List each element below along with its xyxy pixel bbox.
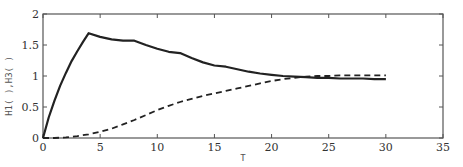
x-axis-label: T — [240, 153, 246, 163]
x-tick-label: 35 — [436, 141, 450, 154]
y-axis: 00.511.52 — [22, 8, 444, 145]
x-tick-label: 5 — [97, 141, 104, 154]
plot-frame — [43, 14, 443, 138]
y-tick-label: 2 — [32, 8, 39, 21]
y-tick-label: 0 — [32, 132, 39, 145]
y-tick-label: 1 — [32, 70, 39, 83]
line-chart: 05101520253035 00.511.52 T H1( ),H3( ) — [0, 0, 463, 167]
x-tick-label: 10 — [150, 141, 164, 154]
x-tick-label: 30 — [379, 141, 393, 154]
x-tick-label: 25 — [322, 141, 336, 154]
series-h1 — [43, 33, 386, 138]
x-axis: 05101520253035 — [40, 14, 451, 154]
series-h3 — [43, 75, 386, 138]
y-axis-label: H1( ),H3( ) — [4, 56, 14, 116]
y-tick-label: 1.5 — [22, 39, 40, 52]
x-tick-label: 15 — [207, 141, 221, 154]
x-tick-label: 0 — [40, 141, 47, 154]
plot-series — [43, 33, 386, 138]
y-tick-label: 0.5 — [22, 101, 40, 114]
x-tick-label: 20 — [265, 141, 279, 154]
